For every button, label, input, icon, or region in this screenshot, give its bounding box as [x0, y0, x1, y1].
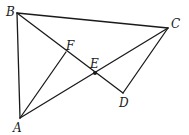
label-e: E — [89, 57, 99, 71]
label-f: F — [65, 39, 75, 53]
label-b: B — [5, 5, 15, 19]
segment-bc — [17, 13, 168, 28]
segment-ab — [17, 13, 20, 118]
segment-af — [20, 52, 66, 118]
point-e-dot — [93, 71, 97, 75]
label-d: D — [118, 96, 129, 110]
segment-bd — [17, 13, 123, 93]
label-c: C — [171, 17, 180, 31]
segment-cd — [123, 28, 168, 93]
geometry-diagram: A B C D E F — [0, 0, 189, 135]
label-a: A — [12, 121, 22, 135]
